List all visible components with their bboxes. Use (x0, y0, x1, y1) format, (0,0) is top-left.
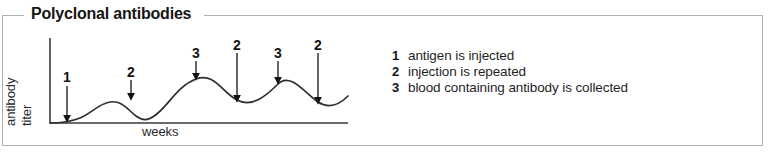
antibody-titer-chart: 1 2 3 2 3 2 antibody titer weeks (0, 0, 380, 160)
y-axis-label-line1: antibody (3, 78, 18, 126)
legend-item-number: 3 (392, 80, 408, 95)
event-marker-label-3: 3 (192, 46, 200, 60)
legend-item-label: blood containing antibody is collected (408, 80, 628, 95)
event-marker-label-2: 2 (127, 65, 135, 79)
event-marker-label-1: 1 (63, 70, 71, 84)
antibody-titer-curve (50, 78, 348, 123)
legend-item: 3 blood containing antibody is collected (392, 80, 742, 96)
y-axis-label-line2: titer (19, 105, 34, 126)
legend-item: 1 antigen is injected (392, 48, 742, 64)
event-marker-label-4: 2 (233, 38, 241, 52)
legend-item-number: 2 (392, 64, 408, 79)
event-marker-label-6: 2 (314, 38, 322, 52)
y-axis-label: antibody titer (4, 38, 46, 126)
event-marker-label-5: 3 (274, 46, 282, 60)
chart-svg (0, 0, 380, 160)
legend-item-label: injection is repeated (408, 64, 526, 79)
legend-item: 2 injection is repeated (392, 64, 742, 80)
legend-item-number: 1 (392, 48, 408, 63)
x-axis-label: weeks (142, 124, 178, 139)
legend-item-label: antigen is injected (408, 48, 514, 63)
chart-legend: 1 antigen is injected 2 injection is rep… (392, 48, 742, 96)
